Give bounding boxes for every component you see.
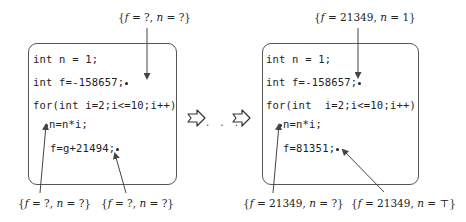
right-bottom-right-arrow (343, 150, 384, 192)
right-bottom-left-arrow (273, 125, 279, 193)
hollow-right-arrow-icon (233, 110, 250, 126)
hollow-right-arrow-icon (188, 110, 205, 126)
arrows-overlay (0, 0, 466, 222)
left-bottom-right-arrow (115, 154, 126, 193)
left-bottom-left-arrow (40, 125, 46, 193)
